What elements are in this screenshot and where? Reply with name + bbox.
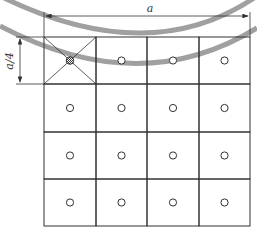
- hollow-circle-marker-icon: [221, 57, 228, 64]
- hollow-circle-marker-icon: [169, 152, 176, 159]
- hollow-circle-marker-icon: [169, 199, 176, 206]
- width-dimension-label: a: [147, 2, 154, 15]
- hollow-circle-marker-icon: [118, 152, 125, 159]
- hollow-circle-marker-icon: [66, 152, 73, 159]
- hollow-circle-marker-icon: [118, 57, 125, 64]
- hollow-circle-marker-icon: [221, 152, 228, 159]
- hollow-circle-marker-icon: [118, 104, 125, 111]
- hollow-circle-marker-icon: [66, 104, 73, 111]
- grid-diagram: a a/4: [0, 0, 257, 229]
- height-dimension-label: a/4: [3, 52, 16, 69]
- hollow-circle-marker-icon: [221, 199, 228, 206]
- hollow-circle-marker-icon: [66, 199, 73, 206]
- hollow-circle-marker-icon: [169, 104, 176, 111]
- hollow-circle-marker-icon: [169, 57, 176, 64]
- hollow-circle-marker-icon: [118, 199, 125, 206]
- hatched-marker-icon: [66, 57, 74, 65]
- cell-grid: [44, 37, 250, 226]
- hollow-circle-marker-icon: [221, 104, 228, 111]
- upper-arc: [0, 0, 257, 33]
